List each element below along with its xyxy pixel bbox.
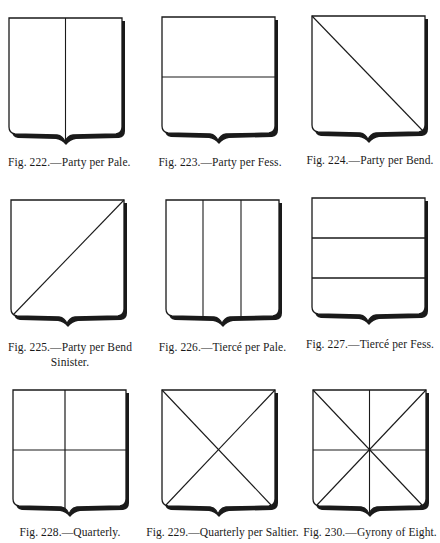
shield-tierce-per-fess-icon [311, 197, 429, 327]
figure-230-gyrony-of-eight [312, 389, 430, 519]
figure-226-tierce-per-pale [165, 199, 283, 329]
shield-party-per-fess-icon [161, 16, 279, 146]
figure-caption: Fig. 222.—Party per Pale. [8, 155, 126, 170]
shield-party-per-bend-sinister-icon [10, 199, 128, 329]
figure-caption: Fig. 225.—Party per Bend Sinister. [0, 340, 140, 370]
shield-party-per-bend-icon [311, 15, 429, 145]
shield-quarterly-icon [12, 389, 130, 519]
shield-tierce-per-pale-icon [165, 199, 283, 329]
figure-caption: Fig. 226.—Tiercé per Pale. [155, 340, 290, 355]
shield-quarterly-per-saltire-icon [161, 389, 279, 519]
caption-line-1: Fig. 225.—Party per Bend [8, 341, 132, 353]
figure-222-party-per-pale [8, 17, 126, 147]
figure-225-party-per-bend-sinister [10, 199, 128, 329]
figure-228-quarterly [12, 389, 130, 519]
figure-229-quarterly-per-saltire [161, 389, 279, 519]
figure-caption: Fig. 227.—Tiercé per Fess. [300, 337, 440, 352]
figure-caption: Fig. 229.—Quarterly per Saltier. [145, 525, 300, 540]
shield-party-per-pale-icon [8, 17, 126, 147]
figure-caption: Fig. 230.—Gyrony of Eight. [300, 525, 440, 540]
figure-224-party-per-bend [311, 15, 429, 145]
figure-caption: Fig. 224.—Party per Bend. [300, 153, 440, 168]
figure-caption: Fig. 228.—Quarterly. [5, 525, 135, 540]
shield-gyrony-of-eight-icon [312, 389, 430, 519]
figure-223-party-per-fess [161, 16, 279, 146]
figure-227-tierce-per-fess [311, 197, 429, 327]
caption-line-2: Sinister. [0, 355, 140, 370]
figure-caption: Fig. 223.—Party per Fess. [155, 155, 285, 170]
